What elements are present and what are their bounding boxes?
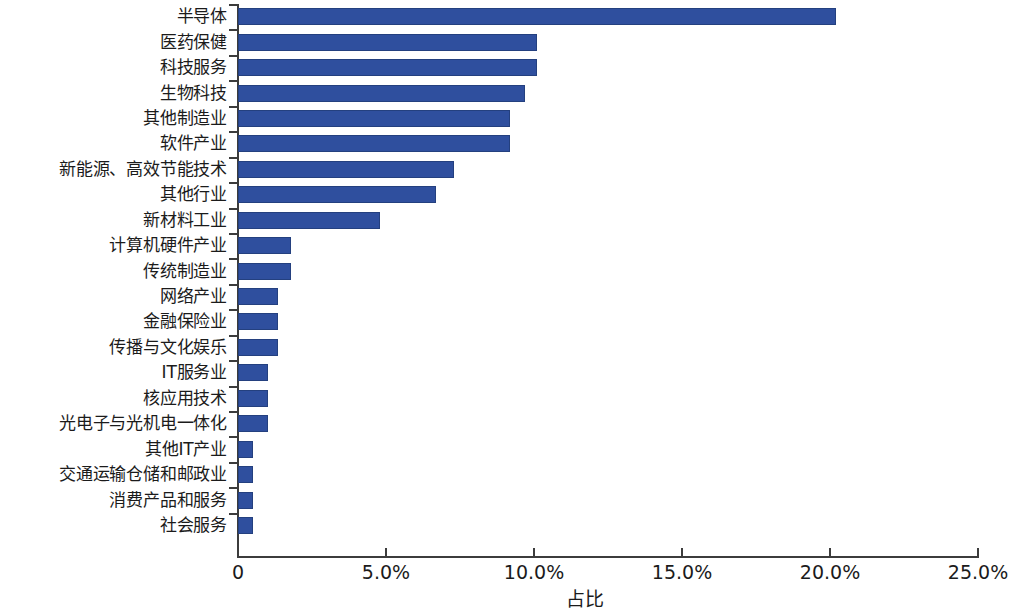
bar-row [238,4,978,29]
category-label-row: 其他制造业 [0,106,232,131]
x-axis-title-text: 占比 [566,588,604,610]
x-axis-tick-label: 25.0% [948,561,1008,583]
category-label-row: 生物科技 [0,80,232,105]
y-axis-tick [229,462,238,464]
x-axis-tick [385,548,387,557]
bar-row [238,462,978,487]
x-axis-tick-label: 0 [232,561,244,583]
x-axis-tick [533,548,535,557]
category-label: 消费产品和服务 [109,492,227,509]
x-axis-tick-label: 5.0% [362,561,410,583]
bar-row [238,55,978,80]
category-label: 传统制造业 [143,263,227,280]
bar-row [238,258,978,283]
y-axis-tick [229,55,238,57]
bar-row [238,106,978,131]
category-axis-labels: 半导体医药保健科技服务生物科技其他制造业软件产业新能源、高效节能技术其他行业新材… [0,4,232,557]
plot-area [238,4,978,557]
y-axis-tick [229,182,238,184]
bar [238,441,253,458]
category-label-row: 网络产业 [0,284,232,309]
bar [238,492,253,509]
category-label: 其他制造业 [143,110,227,127]
bar [238,390,268,407]
category-label-row: 其他行业 [0,182,232,207]
category-label-row: 医药保健 [0,29,232,54]
category-label: 交通运输仓储和邮政业 [59,466,227,483]
category-label: 光电子与光机电一体化 [59,415,227,432]
category-label-row: 社会服务 [0,513,232,538]
bar [238,85,525,102]
category-label-row: 计算机硬件产业 [0,233,232,258]
y-axis-tick [229,309,238,311]
bar [238,339,278,356]
category-label: 金融保险业 [143,313,227,330]
bar-row [238,284,978,309]
y-axis-tick [229,360,238,362]
y-axis-tick [229,513,238,515]
bar-row [238,513,978,538]
category-label: 医药保健 [160,34,227,51]
y-axis-tick [229,4,238,6]
category-label-row: 其他IT产业 [0,436,232,461]
category-label: 传播与文化娱乐 [109,339,227,356]
bar [238,263,291,280]
bar [238,161,454,178]
category-label: IT服务业 [162,364,227,381]
bar-row [238,157,978,182]
x-axis-tick-label: 20.0% [800,561,860,583]
y-axis-tick [229,258,238,260]
y-axis-tick [229,29,238,31]
bar [238,59,537,76]
y-axis-tick [229,411,238,413]
bar [238,34,537,51]
y-axis-tick [229,436,238,438]
bar-row [238,131,978,156]
y-axis-tick [229,233,238,235]
y-axis-tick [229,157,238,159]
bar-row [238,360,978,385]
y-axis-tick [229,487,238,489]
bar-rows [238,4,978,538]
category-label: 新能源、高效节能技术 [59,161,227,178]
category-label-row: 半导体 [0,4,232,29]
category-label: 科技服务 [160,59,227,76]
y-axis-tick [229,208,238,210]
category-label-row: 消费产品和服务 [0,487,232,512]
category-label: 计算机硬件产业 [109,237,227,254]
bar-row [238,386,978,411]
category-label: 社会服务 [160,517,227,534]
bar-row [238,411,978,436]
x-axis-tick [681,548,683,557]
bar [238,466,253,483]
category-label-row: IT服务业 [0,360,232,385]
category-label: 软件产业 [160,135,227,152]
category-label-row: 传统制造业 [0,258,232,283]
y-axis-tick [229,386,238,388]
category-label-row: 核应用技术 [0,386,232,411]
y-axis-tick [229,106,238,108]
bar [238,186,436,203]
bar-row [238,436,978,461]
bar [238,135,510,152]
category-label-row: 新能源、高效节能技术 [0,157,232,182]
category-label: 半导体 [177,8,227,25]
bar [238,415,268,432]
y-axis-tick [229,284,238,286]
bar [238,517,253,534]
category-label-row: 传播与文化娱乐 [0,335,232,360]
x-axis-tick [977,548,979,557]
bar-row [238,487,978,512]
bar-row [238,182,978,207]
category-label-row: 软件产业 [0,131,232,156]
category-label-row: 交通运输仓储和邮政业 [0,462,232,487]
category-label: 其他IT产业 [145,441,227,458]
bar [238,313,278,330]
category-label: 网络产业 [160,288,227,305]
x-axis-tick-label: 10.0% [504,561,564,583]
x-axis-tick [829,548,831,557]
bar-row [238,233,978,258]
x-axis-tick-label: 15.0% [652,561,712,583]
bar-row [238,309,978,334]
